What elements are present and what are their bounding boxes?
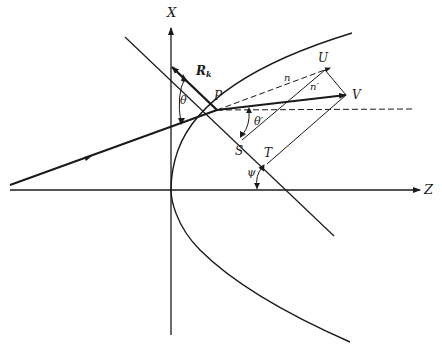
normal-vector-label: Rk bbox=[196, 65, 212, 78]
psi-arrow-bottom-icon bbox=[254, 183, 260, 189]
normal-line bbox=[125, 37, 334, 236]
segment-uv bbox=[325, 70, 346, 95]
x-axis-label: X bbox=[167, 6, 176, 19]
dashed-horizontal bbox=[217, 109, 415, 110]
normal-vector-subscript: k bbox=[206, 69, 212, 79]
parabola-surface bbox=[171, 33, 352, 342]
point-v-label: V bbox=[352, 89, 361, 101]
normal-vector-main: R bbox=[196, 64, 206, 78]
psi-label: ψ bbox=[247, 167, 256, 178]
point-u-label: U bbox=[318, 52, 328, 64]
point-s-label: S bbox=[235, 145, 243, 157]
z-axis-label: Z bbox=[424, 183, 433, 196]
vector-n-label: n bbox=[284, 73, 290, 83]
vector-n-prime-label: n′ bbox=[310, 82, 319, 92]
segment-tv bbox=[267, 95, 346, 164]
point-t-label: T bbox=[264, 147, 272, 159]
diagram-svg bbox=[0, 0, 442, 354]
theta-prime-label: θ′ bbox=[254, 116, 263, 127]
diagram-canvas: X Z Rk P U V S T n n′ θ θ′ ψ bbox=[0, 0, 442, 354]
point-p-label: P bbox=[214, 90, 222, 102]
incident-ray bbox=[10, 110, 217, 185]
theta-label: θ bbox=[180, 95, 187, 106]
theta-prime-arc bbox=[243, 111, 249, 134]
